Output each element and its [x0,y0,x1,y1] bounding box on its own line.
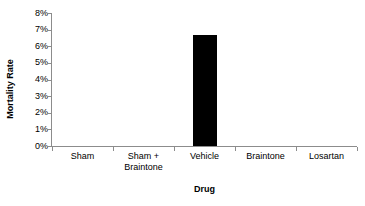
x-axis-title: Drug [52,184,357,195]
y-axis-tick-label: 2% [22,108,48,117]
x-axis-category-labels: ShamSham + BraintoneVehicleBraintoneLosa… [52,151,357,181]
x-axis-tick-mark [357,147,358,151]
y-axis-tick-label: 5% [22,58,48,67]
x-axis-category-label: Braintone [235,151,296,162]
x-axis-category-label: Losartan [296,151,357,162]
y-axis-tick-label: 3% [22,92,48,101]
x-axis-category-label: Sham + Braintone [113,151,174,173]
bar [193,35,217,146]
y-axis-tick-label: 6% [22,42,48,51]
x-axis-line [52,146,357,147]
y-axis-tick-mark [47,13,51,14]
y-axis-tick-label: 7% [22,25,48,34]
y-axis-tick-mark [47,63,51,64]
y-axis-tick-mark [47,80,51,81]
x-axis-category-label: Vehicle [174,151,235,162]
y-axis-tick-mark [47,30,51,31]
y-axis-tick-mark [47,113,51,114]
y-axis-tick-label: 1% [22,125,48,134]
y-axis-title: Mortality Rate [2,16,18,162]
y-axis-tick-label: 8% [22,9,48,18]
plot-area [52,13,357,146]
mortality-rate-bar-chart: Mortality Rate 0%1%2%3%4%5%6%7%8% ShamSh… [0,0,365,206]
y-axis-tick-mark [47,96,51,97]
y-axis-tick-mark [47,129,51,130]
y-axis-tick-mark [47,146,51,147]
y-axis-tick-mark [47,46,51,47]
x-axis-category-label: Sham [52,151,113,162]
y-axis-tick-label: 4% [22,75,48,84]
y-axis-tick-label: 0% [22,142,48,151]
y-axis-tick-labels: 0%1%2%3%4%5%6%7%8% [20,0,48,206]
